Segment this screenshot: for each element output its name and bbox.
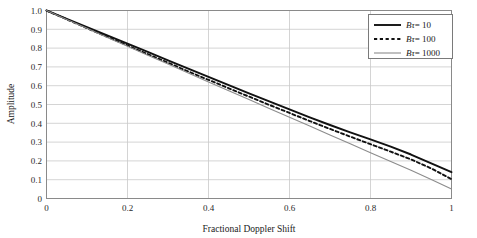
x-tick-label: 0.2: [122, 203, 133, 213]
y-tick-label: 0.9: [31, 25, 43, 35]
x-tick-label: 0.8: [365, 203, 377, 213]
x-tick-label: 0.6: [284, 203, 296, 213]
y-tick-label: 1.0: [31, 6, 43, 16]
x-axis-label: Fractional Doppler Shift: [203, 224, 296, 234]
amplitude-vs-doppler-shift-chart: 00.20.40.60.81 00.10.20.30.40.50.60.70.8…: [0, 0, 477, 238]
legend-label-1: Bτ= 100: [406, 34, 436, 44]
y-tick-label: 0.4: [31, 119, 43, 129]
y-tick-label: 0: [38, 194, 43, 204]
chart-legend: Bτ= 10Bτ= 100Bτ= 1000: [369, 15, 453, 59]
x-tick-label: 0.4: [203, 203, 215, 213]
y-tick-label: 0.1: [31, 175, 42, 185]
x-tick-label: 0: [44, 203, 49, 213]
y-axis-label: Amplitude: [6, 84, 16, 125]
y-tick-label: 0.7: [31, 62, 43, 72]
legend-label-2: Bτ= 1000: [406, 48, 441, 58]
y-tick-label: 0.6: [31, 81, 43, 91]
y-tick-label: 0.3: [31, 137, 43, 147]
chart-figure: 00.20.40.60.81 00.10.20.30.40.50.60.70.8…: [0, 0, 477, 238]
legend-label-0: Bτ= 10: [406, 20, 432, 30]
x-tick-label: 1: [449, 203, 454, 213]
y-tick-label: 0.8: [31, 43, 43, 53]
y-tick-label: 0.2: [31, 156, 42, 166]
y-tick-label: 0.5: [31, 100, 43, 110]
